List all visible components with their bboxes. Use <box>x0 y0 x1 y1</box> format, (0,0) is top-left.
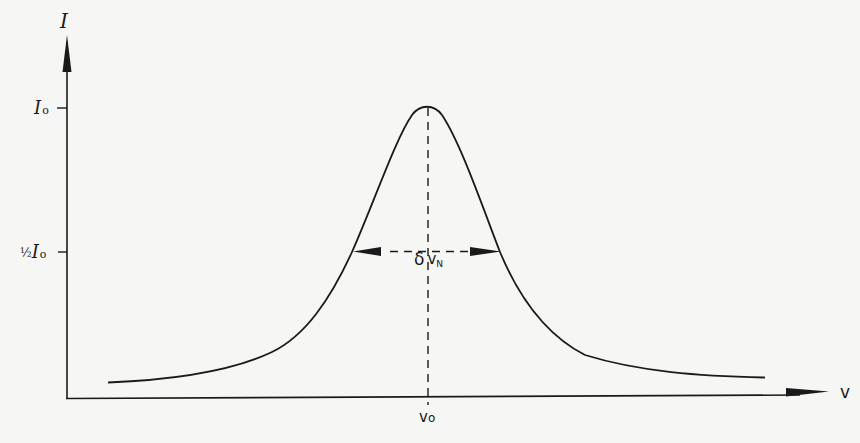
x-axis-label: v <box>840 382 850 402</box>
resonance-curve-figure: I v Io ½Io δvN vo <box>0 0 860 443</box>
y-tick-half-i0: ½Io <box>20 241 67 262</box>
half-width-marker: δvN <box>353 247 501 269</box>
y-axis: I <box>59 9 71 399</box>
y-axis-label: I <box>59 9 69 33</box>
resonance-curve <box>108 107 765 383</box>
x-axis: v <box>66 382 850 402</box>
y-axis-arrow-icon <box>63 35 72 72</box>
x-tick-v0-label: vo <box>419 408 435 426</box>
y-tick-i0-label: Io <box>33 97 49 118</box>
half-width-right-arrow-icon <box>470 247 501 256</box>
half-width-left-arrow-icon <box>353 247 381 256</box>
x-axis-arrow-icon <box>786 388 829 397</box>
y-tick-half-i0-label: ½Io <box>20 241 47 262</box>
y-tick-i0: Io <box>33 97 67 118</box>
